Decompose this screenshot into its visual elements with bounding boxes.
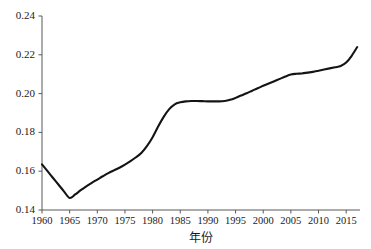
x-tick-label: 1985 bbox=[170, 215, 191, 226]
line-chart: 0.140.160.180.200.220.24 196019651970197… bbox=[0, 0, 371, 249]
y-tick-label: 0.22 bbox=[16, 48, 35, 60]
x-axis-tick-labels: 1960196519701975198019851990199520002005… bbox=[32, 215, 357, 226]
x-axis-title: 年份 bbox=[189, 231, 213, 245]
y-tick-label: 0.18 bbox=[16, 125, 36, 137]
data-series-line bbox=[42, 47, 357, 198]
y-axis-tick-marks bbox=[39, 16, 43, 210]
x-tick-label: 2015 bbox=[336, 215, 357, 226]
x-tick-label: 1980 bbox=[142, 215, 163, 226]
y-axis-tick-labels: 0.140.160.180.200.220.24 bbox=[16, 9, 36, 215]
x-tick-label: 2005 bbox=[280, 215, 301, 226]
x-tick-label: 2000 bbox=[253, 215, 274, 226]
y-tick-label: 0.20 bbox=[16, 87, 36, 99]
chart-canvas: 0.140.160.180.200.220.24 196019651970197… bbox=[0, 0, 371, 249]
y-tick-label: 0.24 bbox=[16, 9, 36, 21]
x-tick-label: 2010 bbox=[308, 215, 329, 226]
y-tick-label: 0.16 bbox=[16, 164, 36, 176]
x-tick-label: 1995 bbox=[225, 215, 246, 226]
x-tick-label: 1975 bbox=[114, 215, 135, 226]
x-tick-label: 1990 bbox=[197, 215, 218, 226]
x-axis-tick-marks bbox=[42, 210, 346, 214]
x-tick-label: 1965 bbox=[59, 215, 80, 226]
x-tick-label: 1960 bbox=[32, 215, 53, 226]
x-tick-label: 1970 bbox=[87, 215, 108, 226]
y-tick-label: 0.14 bbox=[16, 203, 36, 215]
